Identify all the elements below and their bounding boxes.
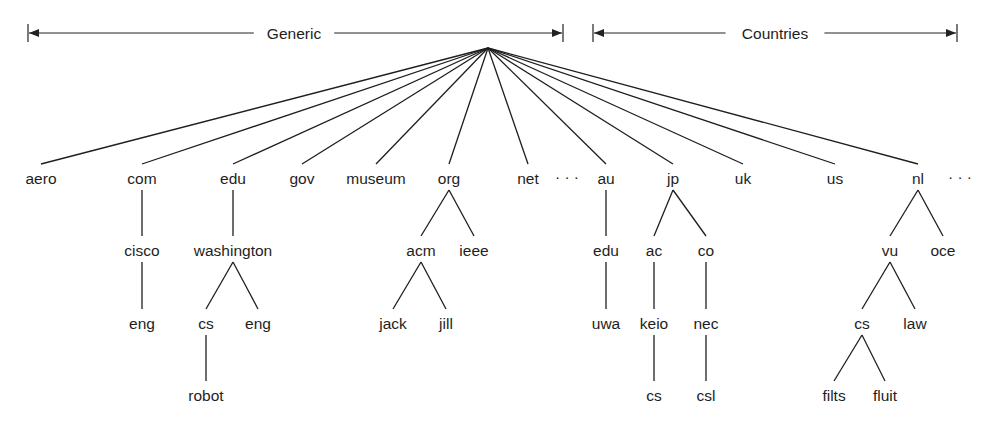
- node-au-edu-uwa: uwa: [592, 315, 621, 332]
- edge-nl-vu-cs: [862, 262, 890, 309]
- node-com-cisco-eng: eng: [129, 315, 155, 332]
- edge-nl-vu: [890, 190, 918, 236]
- node-nl-vu: vu: [882, 242, 898, 259]
- edge-edu: [233, 48, 488, 164]
- node-museum: museum: [346, 170, 405, 187]
- category-brackets: GenericCountries: [28, 24, 957, 42]
- bracket-countries: Countries: [593, 24, 957, 42]
- node-edu-washington: washington: [193, 242, 272, 259]
- node-edu-washington-cs-robot: robot: [188, 387, 224, 404]
- node-jp-ac-keio-cs: cs: [646, 387, 662, 404]
- node-us: us: [827, 170, 844, 187]
- node-nl: nl: [912, 170, 924, 187]
- edge-museum: [376, 48, 488, 164]
- node-org-acm-jack: jack: [378, 315, 407, 332]
- edge-org: [449, 48, 488, 164]
- tree-edges: [41, 48, 943, 381]
- node-nl-vu-cs-fluit: fluit: [873, 387, 898, 404]
- edge-net: [488, 48, 528, 164]
- node-nl-oce: oce: [931, 242, 956, 259]
- edge-jp-ac: [654, 190, 673, 236]
- edge-org-ieee: [449, 190, 474, 236]
- node-gov: gov: [290, 170, 315, 187]
- tree-canvas: GenericCountries aerocomedugovmuseumorgn…: [0, 0, 992, 431]
- node-com: com: [127, 170, 156, 187]
- node-edu: edu: [220, 170, 246, 187]
- bracket-label: Countries: [742, 25, 809, 42]
- node-jp-ac-keio: keio: [640, 315, 668, 332]
- node-jp-co-nec: nec: [694, 315, 719, 332]
- bracket-label: Generic: [267, 25, 322, 42]
- edge-nl-vu-cs-filts: [834, 335, 862, 381]
- node-com-cisco: cisco: [124, 242, 159, 259]
- node-edu-washington-eng: eng: [245, 315, 271, 332]
- edge-nl-vu-cs-fluit: [862, 335, 885, 381]
- edge-nl: [488, 48, 918, 164]
- edge-edu-washington-cs: [206, 262, 233, 309]
- ellipsis-countries: · · ·: [948, 168, 972, 185]
- edge-aero: [41, 48, 488, 164]
- edge-au: [488, 48, 606, 164]
- edge-us: [488, 48, 835, 164]
- edge-jp-co: [673, 190, 706, 236]
- dns-namespace-tree-diagram: GenericCountries aerocomedugovmuseumorgn…: [0, 0, 992, 431]
- edge-org-acm: [421, 190, 449, 236]
- node-au: au: [597, 170, 614, 187]
- edge-nl-oce: [918, 190, 943, 236]
- node-jp-co-nec-csl: csl: [697, 387, 716, 404]
- node-uk: uk: [735, 170, 752, 187]
- node-aero: aero: [25, 170, 56, 187]
- node-au-edu: edu: [593, 242, 619, 259]
- node-nl-vu-cs: cs: [854, 315, 870, 332]
- edge-gov: [302, 48, 488, 164]
- tree-nodes: aerocomedugovmuseumorgnetaujpukusnlcisco…: [25, 170, 955, 404]
- edge-edu-washington-eng: [233, 262, 258, 309]
- node-edu-washington-cs: cs: [198, 315, 214, 332]
- edge-org-acm-jack: [393, 262, 421, 309]
- node-jp: jp: [666, 170, 679, 187]
- node-org-ieee: ieee: [459, 242, 488, 259]
- ellipses: · · ·· · ·: [555, 168, 972, 185]
- node-org-acm-jill: jill: [438, 315, 453, 332]
- edge-nl-vu-law: [890, 262, 915, 309]
- edge-org-acm-jill: [421, 262, 446, 309]
- node-org-acm: acm: [406, 242, 435, 259]
- edge-com: [142, 48, 488, 164]
- node-jp-co: co: [698, 242, 714, 259]
- node-net: net: [517, 170, 539, 187]
- edge-jp: [488, 48, 673, 164]
- node-org: org: [438, 170, 460, 187]
- node-jp-ac: ac: [646, 242, 663, 259]
- node-nl-vu-cs-filts: filts: [822, 387, 846, 404]
- ellipsis-generic: · · ·: [555, 168, 579, 185]
- bracket-generic: Generic: [28, 24, 563, 42]
- node-nl-vu-law: law: [903, 315, 927, 332]
